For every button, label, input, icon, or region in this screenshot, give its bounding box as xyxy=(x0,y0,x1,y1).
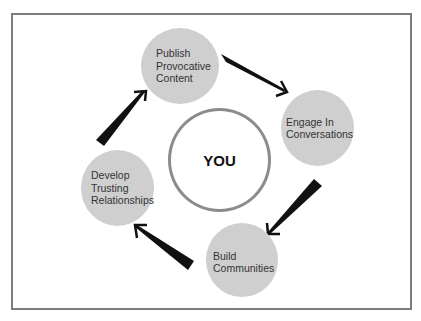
node-label-line: Conversations xyxy=(286,128,354,141)
node-develop-trusting-relationships: Develop Trusting Relationships xyxy=(81,150,154,226)
arrow-build-to-develop xyxy=(135,225,194,270)
arrow-engage-to-build xyxy=(267,179,322,234)
node-engage-in-conversations: Engage In Conversations xyxy=(281,90,354,166)
node-label-line: Content xyxy=(156,72,219,85)
node-label-line: Engage In xyxy=(286,116,354,129)
node-label-line: Build xyxy=(213,250,278,263)
node-label-line: Publish xyxy=(156,47,219,60)
node-label-line: Trusting xyxy=(91,182,154,195)
node-publish-provocative-content: Publish Provocative Content xyxy=(141,28,219,104)
node-build-communities: Build Communities xyxy=(206,223,278,297)
center-label: YOU xyxy=(203,152,236,169)
center-you-circle: YOU xyxy=(168,108,271,212)
arrow-publish-to-engage xyxy=(221,54,287,96)
node-label-line: Develop xyxy=(91,169,154,182)
node-label-line: Relationships xyxy=(91,194,154,207)
arrow-develop-to-publish xyxy=(96,90,146,146)
node-label-line: Provocative xyxy=(156,60,219,73)
node-label-line: Communities xyxy=(213,262,278,275)
